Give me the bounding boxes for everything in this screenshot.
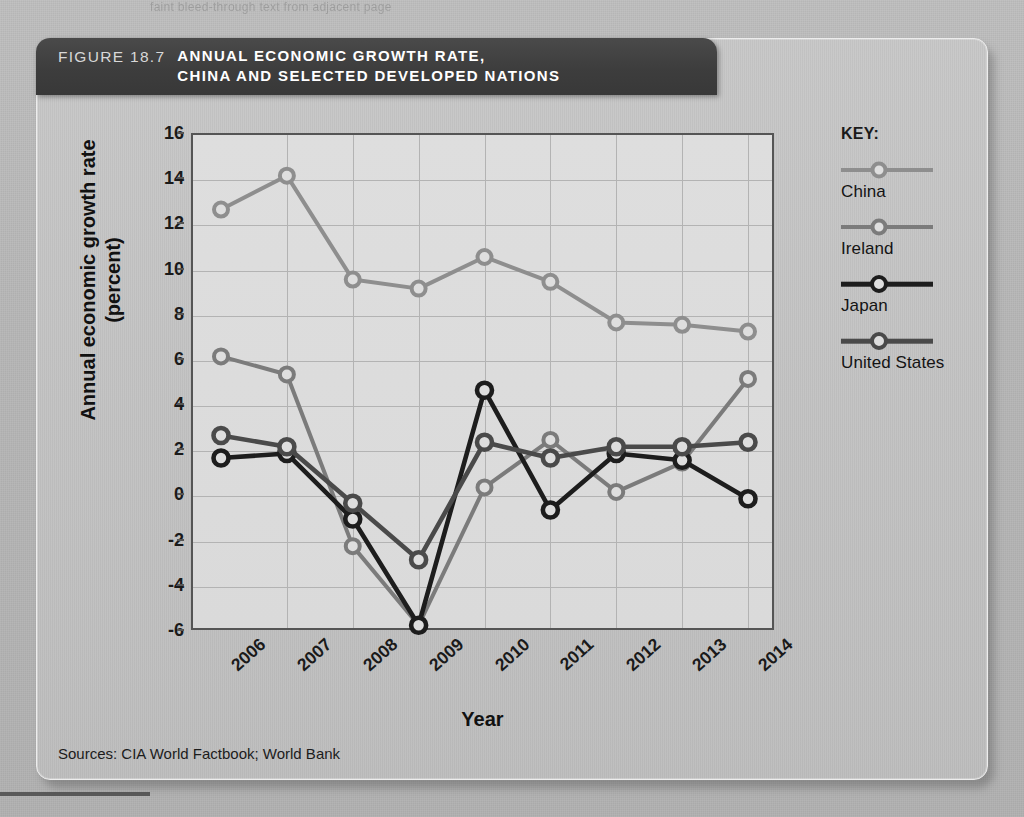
y-tick-mark [177,313,184,315]
data-point [543,433,557,447]
data-point [675,318,689,332]
data-point [345,512,360,527]
y-axis-label-line-1: Annual economic growth rate [76,115,101,445]
data-point [279,439,294,454]
figure-number: FIGURE 18.7 [58,46,165,66]
series-layer [193,135,776,632]
figure-title-line-2: CHINA AND SELECTED DEVELOPED NATIONS [177,66,560,86]
chart-legend: KEY: ChinaIrelandJapanUnited States [841,125,986,389]
data-point [477,383,492,398]
data-point [741,491,756,506]
data-point [345,496,360,511]
data-point [543,451,558,466]
x-tick-label: 2014 [754,634,797,676]
data-point [214,203,228,217]
legend-marker-icon [870,275,888,293]
y-tick-mark [177,403,184,405]
data-point [543,275,557,289]
legend-item-china: China [841,161,986,202]
y-tick-mark [177,493,184,495]
data-point [280,169,294,183]
figure-title: ANNUAL ECONOMIC GROWTH RATE, CHINA AND S… [177,46,560,86]
page-bottom-rule [0,792,150,796]
x-tick-label: 2007 [293,634,336,676]
legend-marker-icon [870,332,888,350]
y-axis-ticks: 1614121086420-2-4-6 [136,133,184,630]
y-axis-label: Annual economic growth rate (percent) [76,115,126,445]
figure-source: Sources: CIA World Factbook; World Bank [58,745,340,762]
chart-area: Annual economic growth rate (percent) 16… [36,95,986,778]
figure-card: FIGURE 18.7 ANNUAL ECONOMIC GROWTH RATE,… [36,38,988,782]
series-japan [214,383,756,633]
legend-marker-icon [871,162,888,179]
x-tick-label: 2009 [425,634,468,676]
legend-swatch-icon [841,332,933,350]
data-point [609,439,624,454]
data-point [609,316,623,330]
data-point [280,367,294,381]
series-line [221,390,748,625]
y-tick-mark [177,222,184,224]
x-tick-label: 2013 [688,634,731,676]
x-axis-label: Year [191,708,774,731]
y-tick-mark [177,177,184,179]
legend-label: United States [841,353,986,373]
x-tick-label: 2006 [227,634,270,676]
x-axis-ticks: 200620072008200920102011201220132014 [191,634,774,704]
legend-marker-icon [871,219,888,236]
series-china [214,169,755,339]
data-point [214,428,229,443]
legend-item-japan: Japan [841,275,986,316]
data-point [477,435,492,450]
data-point [741,325,755,339]
legend-item-ireland: Ireland [841,218,986,259]
data-point [214,451,229,466]
data-point [478,480,492,494]
data-point [741,435,756,450]
y-axis-label-line-2: (percent) [101,115,126,445]
x-tick-label: 2011 [556,634,598,675]
data-point [675,439,690,454]
data-point [346,539,360,553]
data-point [411,618,426,633]
legend-label: China [841,182,986,202]
legend-label: Japan [841,296,986,316]
y-tick-mark [177,132,184,134]
legend-swatch-icon [841,275,933,293]
page-background: faint bleed-through text from adjacent p… [0,0,1024,817]
legend-items: ChinaIrelandJapanUnited States [841,161,986,373]
data-point [412,282,426,296]
y-tick-mark [177,358,184,360]
series-line [221,435,748,559]
page-bleed-text: faint bleed-through text from adjacent p… [150,0,910,22]
data-point [543,503,558,518]
legend-label: Ireland [841,239,986,259]
data-point [609,485,623,499]
y-tick-mark [177,268,184,270]
plot-frame [191,133,774,630]
data-point [214,349,228,363]
data-point [411,552,426,567]
legend-swatch-icon [841,161,933,179]
data-point [741,372,755,386]
legend-title: KEY: [841,125,986,143]
x-tick-label: 2012 [622,634,665,676]
x-tick-label: 2010 [491,634,534,676]
figure-header: FIGURE 18.7 ANNUAL ECONOMIC GROWTH RATE,… [36,38,717,95]
figure-title-line-1: ANNUAL ECONOMIC GROWTH RATE, [177,46,560,66]
y-tick-mark [177,629,184,631]
legend-item-united-states: United States [841,332,986,373]
series-united-states [214,428,756,567]
y-tick-mark [177,448,184,450]
legend-swatch-icon [841,218,933,236]
x-tick-label: 2008 [359,634,402,676]
data-point [346,273,360,287]
y-tick-mark [177,539,184,541]
y-tick-mark [177,584,184,586]
data-point [478,250,492,264]
